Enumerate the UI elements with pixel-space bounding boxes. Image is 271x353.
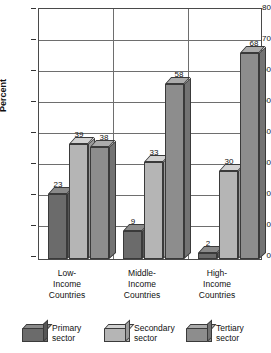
bar-low-tertiary — [90, 140, 109, 259]
legend-cube-secondary-icon — [104, 324, 130, 342]
legend-cube-primary-icon — [22, 324, 48, 342]
bar-mid-secondary — [144, 155, 163, 259]
legend-label-tertiary: Tertiary sector — [216, 323, 244, 343]
y-tick-mark — [31, 132, 36, 133]
bar-face-side — [259, 47, 266, 259]
legend-cube-tertiary-icon — [186, 324, 212, 342]
gridline-60 — [39, 71, 261, 72]
bar-low-primary — [48, 187, 67, 259]
bar-value-mid-tertiary: 58 — [164, 71, 194, 79]
bar-high-tertiary — [240, 46, 259, 259]
bar-mid-tertiary — [165, 77, 184, 259]
bar-face-front — [219, 171, 238, 259]
x-category-line: Middle- — [99, 268, 185, 279]
y-tick-mark — [31, 225, 36, 226]
bar-value-low-tertiary: 38 — [89, 134, 119, 142]
legend-label-line2: sector — [216, 333, 244, 343]
legend-label-line1: Tertiary — [216, 323, 244, 333]
x-category-line: Low- — [24, 268, 110, 279]
x-category-high-income: High- Income Countries — [174, 268, 260, 301]
bar-face-front — [90, 147, 109, 259]
x-category-line: Countries — [174, 290, 260, 301]
bar-low-secondary — [69, 137, 88, 259]
gridline-50 — [39, 102, 261, 103]
x-category-line: Income — [99, 279, 185, 290]
y-axis-title: Percent — [0, 79, 8, 112]
bar-face-front — [69, 144, 88, 259]
y-tick-mark — [31, 70, 36, 71]
bar-face-front — [198, 253, 217, 259]
legend-label-primary: Primary sector — [52, 323, 81, 343]
bar-face-front — [123, 231, 142, 259]
bar-face-front — [144, 162, 163, 259]
y-tick-mark — [31, 101, 36, 102]
y-tick-mark — [31, 256, 36, 257]
y-tick-mark — [31, 163, 36, 164]
bar-face-side — [109, 141, 116, 259]
x-category-middle-income: Middle- Income Countries — [99, 268, 185, 301]
gridline-70 — [39, 40, 261, 41]
legend-label-line1: Secondary — [134, 323, 175, 333]
legend-label-line1: Primary — [52, 323, 81, 333]
bar-face-front — [48, 194, 67, 259]
bar-face-side — [184, 78, 191, 259]
bar-value-high-tertiary: 68 — [239, 40, 269, 48]
bar-face-front — [240, 53, 259, 259]
y-tick-mark — [31, 8, 36, 9]
x-category-line: High- — [174, 268, 260, 279]
bar-chart: Percent 80 70 60 50 40 30 20 10 0 — [0, 0, 271, 353]
y-tick-mark — [31, 39, 36, 40]
x-category-line: Countries — [24, 290, 110, 301]
legend-label-line2: sector — [134, 333, 175, 343]
x-category-line: Income — [24, 279, 110, 290]
x-category-line: Income — [174, 279, 260, 290]
bar-mid-primary — [123, 224, 142, 259]
chart-legend: Primary sector Secondary sector Tert — [0, 320, 271, 353]
y-tick-mark — [31, 194, 36, 195]
x-category-low-income: Low- Income Countries — [24, 268, 110, 301]
legend-label-line2: sector — [52, 333, 81, 343]
legend-label-secondary: Secondary sector — [134, 323, 175, 343]
bar-high-secondary — [219, 164, 238, 259]
bar-face-front — [165, 84, 184, 259]
plot-area: 23 39 38 9 33 5 — [38, 8, 262, 260]
x-category-line: Countries — [99, 290, 185, 301]
